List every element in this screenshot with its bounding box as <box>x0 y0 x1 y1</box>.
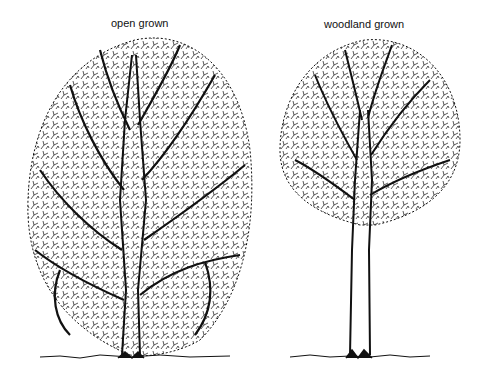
woodland-grown-tree <box>280 40 460 358</box>
tree-illustrations <box>0 0 488 383</box>
open-grown-tree <box>28 38 252 358</box>
